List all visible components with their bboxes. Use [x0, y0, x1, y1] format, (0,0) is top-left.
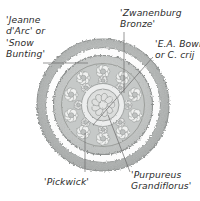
label-jeanne-darc[interactable]: 'Jeanne d'Arc' or 'Snow Bunting'	[6, 14, 45, 60]
label-purpureus-grandiflorus[interactable]: 'Purpureus Grandiflorus'	[131, 169, 191, 192]
flower-cluster	[128, 88, 141, 102]
flower-cluster	[77, 71, 90, 85]
label-zwanenburg-bronze[interactable]: 'Zwanenburg Bronze'	[120, 7, 182, 30]
center-rosette	[87, 89, 119, 121]
illustration-page: 'Jeanne d'Arc' or 'Snow Bunting' 'Zwanen…	[0, 0, 200, 201]
flower-cluster	[65, 88, 78, 102]
label-pickwick[interactable]: 'Pickwick'	[44, 176, 89, 187]
flower-cluster	[128, 109, 141, 123]
flower-cluster	[77, 125, 90, 139]
flower-cluster	[116, 125, 129, 139]
flower-cluster	[65, 109, 78, 123]
label-ea-bowles[interactable]: 'E.A. Bowle or C. crij	[155, 38, 200, 61]
flower-cluster	[116, 71, 129, 85]
